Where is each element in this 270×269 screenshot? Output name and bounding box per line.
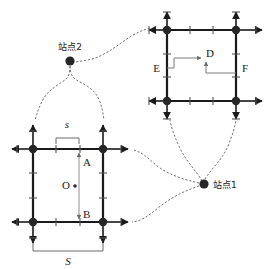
point-o-marker [73,184,77,188]
dimension-large-s [33,243,103,251]
node-lower-bottomleft [29,218,37,226]
leader-station1-to-lower-bottomright [132,186,199,222]
station1-label: 站点1 [213,179,237,190]
label-e: E [153,62,160,74]
station1-group: 站点1 [132,120,237,222]
leader-station1-to-upper-left [170,120,202,181]
station2-node [65,56,74,65]
label-a: A [83,156,91,168]
bracket-large-s [33,243,103,251]
upper-edf-connector [167,58,236,73]
leader-station2-to-upper-grid [76,28,150,62]
figure-container: E D F [0,0,270,269]
label-d: D [206,47,214,59]
connector-f-to-d [206,62,236,73]
label-small-s: s [65,118,69,130]
upper-grid-group: E D F [149,12,262,119]
lower-grid-group: A B O s S [12,118,128,267]
label-o: O [62,179,70,191]
node-upper-bottomright [232,97,240,105]
node-lower-topright [99,145,107,153]
leader-station1-to-upper-right [205,120,236,179]
node-lower-bottomright [99,218,107,226]
node-upper-topright [232,26,240,34]
node-upper-topleft [163,26,171,34]
station1-leaders [132,120,236,222]
label-b: B [83,208,90,220]
bracket-small-s [56,138,79,144]
connector-e-to-d [167,58,201,68]
station2-group: 站点2 [35,28,150,120]
leader-station2-to-lower-left [35,66,70,120]
station2-leaders [35,28,150,120]
leader-station2-to-lower-right [70,66,104,120]
node-upper-bottomleft [163,97,171,105]
dimension-small-s [56,138,79,144]
node-lower-topleft [29,145,37,153]
label-f: F [242,62,248,74]
station1-node [199,179,208,188]
upper-grid-edges [167,30,236,101]
station2-label: 站点2 [58,41,82,52]
lower-grid-arrows [12,125,128,243]
diagram-canvas: E D F [0,0,270,269]
leader-station1-to-lower-topright [134,150,199,183]
label-large-s: S [65,255,71,267]
